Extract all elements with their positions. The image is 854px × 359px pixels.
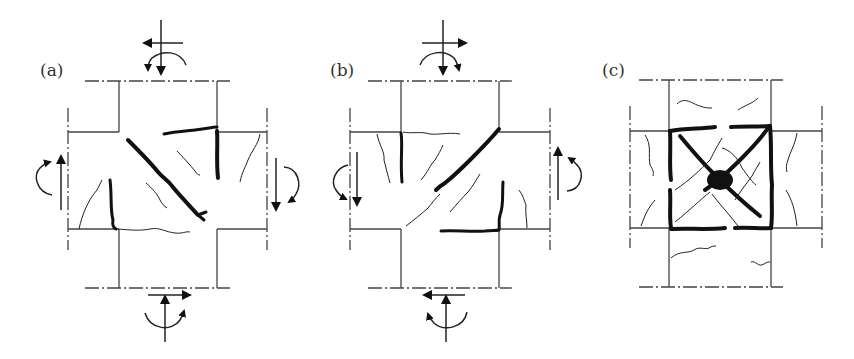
moment-arrow-icon bbox=[420, 53, 459, 70]
cracks-c bbox=[641, 98, 797, 265]
top-force-arrows-b bbox=[420, 20, 466, 74]
left-force-arrows-b bbox=[333, 152, 357, 205]
crack-intersection bbox=[707, 170, 733, 190]
left-force-arrows-a bbox=[36, 156, 61, 210]
bottom-force-arrows-b bbox=[424, 295, 467, 342]
moment-arrow-icon bbox=[284, 167, 299, 202]
moment-arrow-icon bbox=[333, 165, 348, 199]
panel-c: (c) bbox=[602, 60, 822, 287]
moment-arrow-icon bbox=[36, 162, 52, 195]
right-force-arrows-b bbox=[558, 148, 581, 200]
right-force-arrows-a bbox=[276, 158, 299, 210]
joint-outline-a bbox=[68, 81, 267, 288]
panel-a: (a) bbox=[36, 20, 298, 342]
joint-crack-diagram: (a) bbox=[0, 0, 854, 359]
bottom-force-arrows-a bbox=[145, 295, 190, 342]
panel-b: (b) bbox=[330, 20, 581, 342]
panel-b-label: (b) bbox=[330, 60, 354, 80]
moment-arrow-icon bbox=[428, 312, 467, 328]
joint-outline-b bbox=[350, 81, 550, 288]
moment-arrow-icon bbox=[148, 53, 186, 70]
cracks-b bbox=[377, 129, 527, 231]
moment-arrow-icon bbox=[567, 158, 581, 191]
panel-a-label: (a) bbox=[40, 60, 63, 80]
panel-c-label: (c) bbox=[602, 60, 625, 80]
cracks-a bbox=[79, 127, 260, 233]
top-force-arrows-a bbox=[144, 20, 186, 74]
